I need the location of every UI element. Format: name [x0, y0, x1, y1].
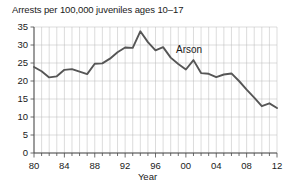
svg-text:92: 92 [120, 160, 131, 171]
svg-text:15: 15 [17, 93, 28, 104]
svg-text:5: 5 [23, 129, 28, 140]
svg-text:88: 88 [89, 160, 100, 171]
svg-text:84: 84 [59, 160, 70, 171]
svg-text:08: 08 [241, 160, 252, 171]
svg-text:10: 10 [17, 111, 28, 122]
chart-plot-area: 05101520253035 808488929600040812 Arson [0, 0, 295, 191]
svg-text:00: 00 [181, 160, 192, 171]
y-axis-tick-marks [31, 27, 35, 153]
svg-text:25: 25 [17, 57, 28, 68]
svg-text:80: 80 [29, 160, 40, 171]
y-axis-tick-labels: 05101520253035 [17, 21, 28, 158]
x-axis-title: Year [0, 171, 295, 182]
series-annotation-arson: Arson [176, 44, 202, 55]
svg-text:20: 20 [17, 75, 28, 86]
svg-text:04: 04 [211, 160, 222, 171]
vertical-gridlines [34, 27, 277, 153]
chart-container: Arrests per 100,000 juveniles ages 10–17… [0, 0, 295, 191]
svg-text:0: 0 [23, 147, 28, 158]
svg-text:12: 12 [272, 160, 283, 171]
x-axis-tick-labels: 808488929600040812 [29, 160, 283, 171]
svg-text:30: 30 [17, 39, 28, 50]
svg-text:35: 35 [17, 21, 28, 32]
x-axis-tick-marks [34, 153, 277, 158]
svg-text:96: 96 [150, 160, 161, 171]
